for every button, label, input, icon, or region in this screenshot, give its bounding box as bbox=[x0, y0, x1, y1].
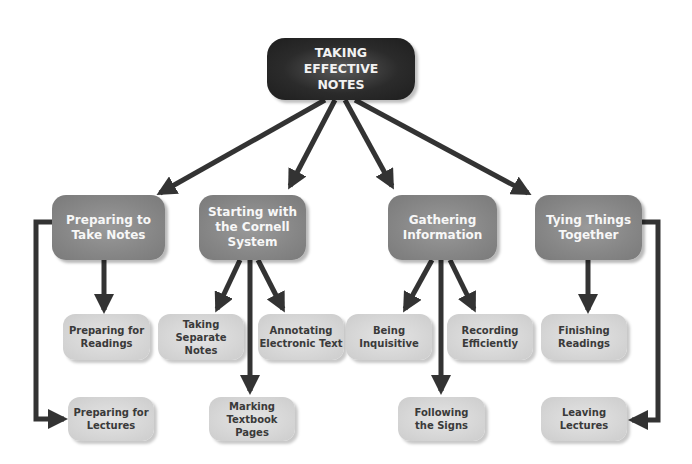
leaf-node-preparing-for-readings: Preparing for Readings bbox=[63, 314, 150, 360]
arrow-root-to-cornell bbox=[290, 100, 335, 186]
branch-node-starting-with-cornell: Starting with the Cornell System bbox=[199, 195, 306, 260]
branch-node-gathering-information: Gathering Information bbox=[388, 195, 497, 260]
arrow-root-to-gathering bbox=[345, 100, 392, 186]
arrow-root-to-tying bbox=[355, 100, 528, 193]
arrow-gathering-to-recording bbox=[450, 260, 474, 309]
arrow-cornell-to-annotating bbox=[258, 260, 283, 309]
leaf-node-recording-efficiently: Recording Efficiently bbox=[447, 314, 533, 360]
leaf-node-preparing-for-lectures: Preparing for Lectures bbox=[68, 397, 154, 441]
branch-node-tying-things-together: Tying Things Together bbox=[535, 195, 642, 260]
branch-node-preparing-to-take-notes: Preparing to Take Notes bbox=[52, 195, 165, 260]
arrow-cornell-to-separate bbox=[217, 260, 240, 309]
leaf-node-annotating-electronic-text: Annotating Electronic Text bbox=[258, 314, 344, 360]
leaf-node-marking-textbook-pages: Marking Textbook Pages bbox=[209, 397, 295, 441]
leaf-node-leaving-lectures: Leaving Lectures bbox=[541, 397, 627, 441]
leaf-node-being-inquisitive: Being Inquisitive bbox=[346, 314, 432, 360]
leaf-node-following-the-signs: Following the Signs bbox=[398, 397, 485, 441]
root-node-taking-effective-notes: TAKING EFFECTIVE NOTES bbox=[267, 38, 415, 100]
leaf-node-taking-separate-notes: Taking Separate Notes bbox=[158, 314, 244, 360]
arrow-root-to-preparing bbox=[160, 100, 325, 193]
leaf-node-finishing-readings: Finishing Readings bbox=[541, 314, 627, 360]
arrow-gathering-to-being bbox=[405, 260, 432, 309]
